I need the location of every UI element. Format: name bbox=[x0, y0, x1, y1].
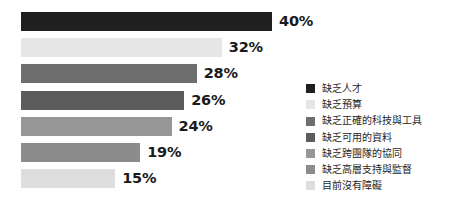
legend-swatch-icon bbox=[306, 165, 315, 174]
legend-swatch-icon bbox=[306, 117, 315, 126]
legend-item-4: 缺乏可用的資料 bbox=[306, 130, 451, 146]
chart-legend: 缺乏人才缺乏預算缺乏正確的科技與工具缺乏可用的資料缺乏跨團隊的協同缺乏高層支持與… bbox=[306, 81, 451, 194]
bar-value-label: 26% bbox=[191, 91, 225, 110]
bar-row: 24% bbox=[21, 117, 291, 136]
legend-swatch-icon bbox=[306, 133, 315, 142]
bar-5 bbox=[21, 117, 172, 136]
legend-item-label: 缺乏正確的科技與工具 bbox=[322, 113, 422, 129]
legend-item-label: 缺乏可用的資料 bbox=[322, 130, 392, 146]
bar-row: 15% bbox=[21, 169, 291, 188]
legend-item-7: 目前沒有障礙 bbox=[306, 178, 451, 194]
legend-item-5: 缺乏跨團隊的協同 bbox=[306, 146, 451, 162]
bar-value-label: 19% bbox=[147, 143, 181, 162]
legend-item-label: 目前沒有障礙 bbox=[322, 178, 382, 194]
bar-row: 19% bbox=[21, 143, 291, 162]
chart-plot-area: 40%32%28%26%24%19%15% bbox=[21, 12, 291, 202]
bar-value-label: 24% bbox=[179, 117, 213, 136]
legend-swatch-icon bbox=[306, 181, 315, 190]
bar-chart: 40%32%28%26%24%19%15% 缺乏人才缺乏預算缺乏正確的科技與工具… bbox=[0, 0, 455, 211]
bar-1 bbox=[21, 12, 272, 31]
legend-item-2: 缺乏預算 bbox=[306, 97, 451, 113]
legend-swatch-icon bbox=[306, 84, 315, 93]
bar-value-label: 28% bbox=[204, 64, 238, 83]
legend-swatch-icon bbox=[306, 149, 315, 158]
legend-swatch-icon bbox=[306, 100, 315, 109]
bar-row: 26% bbox=[21, 91, 291, 110]
bar-row: 40% bbox=[21, 12, 291, 31]
legend-item-label: 缺乏跨團隊的協同 bbox=[322, 146, 402, 162]
legend-item-1: 缺乏人才 bbox=[306, 81, 451, 97]
bar-6 bbox=[21, 143, 140, 162]
bar-2 bbox=[21, 38, 222, 57]
bar-7 bbox=[21, 169, 115, 188]
bar-row: 32% bbox=[21, 38, 291, 57]
bar-row: 28% bbox=[21, 64, 291, 83]
bar-value-label: 15% bbox=[122, 169, 156, 188]
bar-value-label: 40% bbox=[279, 12, 313, 31]
legend-item-label: 缺乏高層支持與監督 bbox=[322, 162, 412, 178]
bar-4 bbox=[21, 91, 184, 110]
bar-3 bbox=[21, 64, 197, 83]
legend-item-label: 缺乏人才 bbox=[322, 81, 362, 97]
legend-item-6: 缺乏高層支持與監督 bbox=[306, 162, 451, 178]
bar-value-label: 32% bbox=[229, 38, 263, 57]
legend-item-label: 缺乏預算 bbox=[322, 97, 362, 113]
legend-item-3: 缺乏正確的科技與工具 bbox=[306, 113, 451, 129]
